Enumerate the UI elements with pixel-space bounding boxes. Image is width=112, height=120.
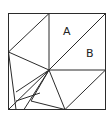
label-b: B	[86, 47, 94, 60]
left-slant	[9, 52, 17, 110]
main-diagonal	[49, 14, 106, 71]
top-left-diagonal	[9, 14, 50, 53]
diagram-canvas: A B	[0, 0, 112, 120]
ray-left	[9, 52, 50, 70]
label-a: A	[63, 25, 71, 38]
bottom-right-diagonal	[65, 70, 106, 110]
inner-seg-1	[16, 93, 40, 101]
ray-a	[16, 70, 49, 92]
inner-seg-2	[31, 101, 65, 110]
ray-bottom	[49, 70, 65, 110]
